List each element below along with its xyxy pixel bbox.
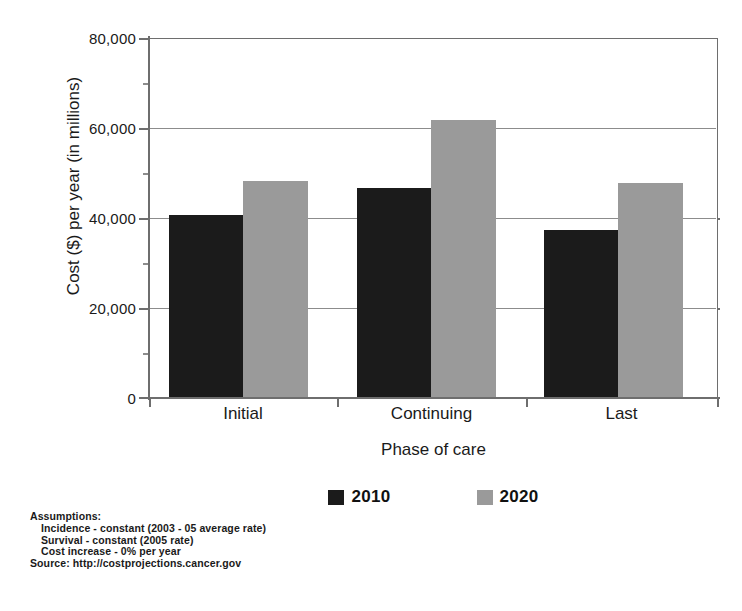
y-tick-label-40000: 40,000	[58, 210, 136, 227]
x-category-initial: Initial	[149, 404, 337, 424]
y-tick-label-0: 0	[58, 390, 136, 407]
y-tick-label-20000: 20,000	[58, 300, 136, 317]
x-axis-line	[148, 397, 720, 399]
bar-2020-continuing[interactable]	[431, 120, 496, 397]
bar-2010-continuing[interactable]	[357, 188, 431, 397]
bar-2020-last[interactable]	[618, 183, 683, 397]
x-tick-right	[717, 398, 719, 407]
bar-2010-initial[interactable]	[169, 215, 243, 397]
x-category-continuing: Continuing	[337, 404, 526, 424]
assumptions-block: Assumptions: Incidence - constant (2003 …	[30, 511, 266, 570]
y-axis-line	[148, 36, 150, 400]
assumption-line-incidence: Incidence - constant (2003 - 05 average …	[30, 523, 266, 535]
bar-chart-figure: Cost ($) per year (in millions) 80,000 6…	[0, 0, 742, 611]
y-axis-title: Cost ($) per year (in millions)	[64, 26, 84, 346]
source-line: Source: http://costprojections.cancer.go…	[30, 558, 266, 570]
black-square-swatch-icon	[328, 490, 344, 505]
legend-label-2010: 2010	[351, 487, 390, 507]
gray-square-swatch-icon	[477, 490, 493, 505]
y-tick-label-80000: 80,000	[58, 30, 136, 47]
y-tick-label-60000: 60,000	[58, 120, 136, 137]
x-axis-title: Phase of care	[149, 440, 718, 460]
legend-label-2020: 2020	[500, 487, 539, 507]
legend: 2010 2020	[149, 487, 718, 507]
x-category-last: Last	[526, 404, 717, 424]
legend-item-2020[interactable]: 2020	[477, 487, 539, 507]
legend-item-2010[interactable]: 2010	[328, 487, 390, 507]
bar-2010-last[interactable]	[544, 230, 618, 397]
bar-2020-initial[interactable]	[243, 181, 308, 397]
plot-area	[149, 38, 718, 398]
